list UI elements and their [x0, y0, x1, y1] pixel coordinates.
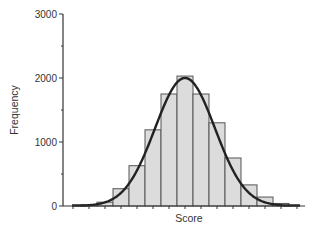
histogram-bar: [161, 94, 177, 206]
y-tick-label: 0: [51, 201, 57, 212]
y-tick-label: 3000: [35, 9, 58, 20]
chart-canvas: 0100020003000 Frequency Score: [0, 0, 319, 238]
histogram-chart: 0100020003000 Frequency Score: [0, 0, 319, 238]
y-tick-labels: 0100020003000: [35, 9, 58, 212]
histogram-bars: [81, 76, 289, 206]
x-axis-title: Score: [175, 212, 203, 224]
histogram-bar: [193, 94, 209, 206]
y-axis-title: Frequency: [8, 84, 20, 134]
y-tick-label: 2000: [35, 73, 58, 84]
histogram-bar: [177, 76, 193, 206]
y-tick-label: 1000: [35, 137, 58, 148]
histogram-bar: [145, 130, 161, 206]
